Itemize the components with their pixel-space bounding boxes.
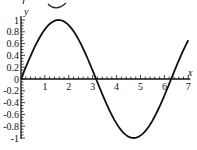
top-cropped-fragment	[48, 3, 66, 8]
y-tick-label: 0.6	[7, 38, 20, 49]
y-axis-label: y	[23, 6, 29, 17]
x-tick-label: 3	[90, 81, 95, 92]
top-cropped-fragment-left	[23, 0, 24, 4]
y-tick-label: -0.2	[3, 85, 19, 96]
y-tick-labels: 10.80.60.40.20-0.2-0.4-0.6-0.8-1	[3, 15, 19, 144]
y-tick-label: 0	[14, 74, 19, 85]
y-tick-label: 0.2	[7, 62, 20, 73]
y-tick-label: 1	[14, 15, 19, 26]
y-tick-label: -1	[11, 133, 19, 144]
x-tick-label: 5	[138, 81, 143, 92]
x-tick-label: 2	[66, 81, 71, 92]
x-axis	[21, 75, 190, 79]
y-tick-label: -0.4	[3, 97, 19, 108]
x-axis-label: x	[187, 67, 193, 78]
y-tick-label: -0.8	[3, 121, 19, 132]
x-tick-label: 7	[186, 81, 191, 92]
sine-chart: 10.80.60.40.20-0.2-0.4-0.6-0.8-1 1234567…	[0, 0, 197, 150]
y-tick-label: -0.6	[3, 109, 19, 120]
x-tick-label: 1	[42, 81, 47, 92]
x-tick-label: 4	[114, 81, 119, 92]
y-tick-label: 0.8	[7, 26, 20, 37]
y-tick-label: 0.4	[7, 50, 20, 61]
